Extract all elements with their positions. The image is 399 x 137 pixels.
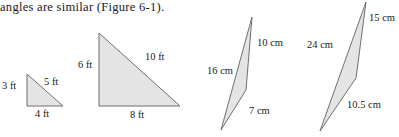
triangle-4-right-label: 15 cm	[369, 12, 395, 24]
triangle-4-shape	[320, 2, 366, 131]
triangle-1-left-label: 3 ft	[2, 80, 16, 92]
figure-diagram	[0, 0, 399, 137]
triangle-3-bottom-label: 7 cm	[249, 105, 270, 117]
triangle-3-right-label: 10 cm	[257, 37, 283, 49]
triangle-4-left-label: 24 cm	[307, 39, 333, 51]
triangle-3-left-label: 16 cm	[207, 65, 233, 77]
triangle-2-bottom-label: 8 ft	[130, 109, 144, 121]
triangle-1-bottom-label: 4 ft	[35, 108, 49, 120]
triangle-2-hypotenuse-label: 10 ft	[145, 51, 165, 63]
triangle-1-hypotenuse-label: 5 ft	[44, 76, 58, 88]
triangle-2-left-label: 6 ft	[78, 59, 92, 71]
triangle-4-bottom-label: 10.5 cm	[347, 99, 381, 111]
triangle-2-shape	[99, 33, 180, 106]
